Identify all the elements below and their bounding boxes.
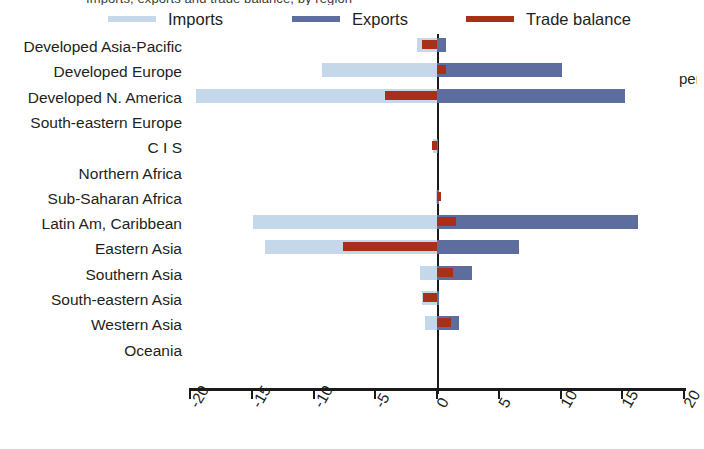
legend-item-exports: Exports: [292, 8, 408, 30]
chart-row: [190, 135, 684, 160]
chart-row: [190, 186, 684, 211]
legend-item-imports: Imports: [108, 8, 223, 30]
bar-trade-balance: [437, 192, 441, 201]
y-axis-category-labels: Developed Asia-PacificDeveloped EuropeDe…: [0, 34, 182, 388]
bar-imports: [322, 63, 437, 77]
y-axis-label: Eastern Asia: [0, 241, 182, 257]
y-axis-label: Latin Am, Caribbean: [0, 216, 182, 232]
bar-imports: [420, 266, 437, 280]
legend-swatch-exports: [292, 16, 340, 22]
y-axis-label: Developed Europe: [0, 64, 182, 80]
y-axis-label: Developed N. America: [0, 90, 182, 106]
legend-swatch-trade-balance: [466, 16, 514, 22]
bar-trade-balance: [432, 141, 437, 150]
y-axis-label: C I S: [0, 140, 182, 156]
x-axis-tick-label: -5: [371, 390, 393, 411]
bar-trade-balance: [437, 217, 456, 226]
legend-swatch-imports: [108, 16, 156, 22]
chart-row: [190, 338, 684, 363]
plot-area: [190, 34, 684, 388]
bar-exports: [437, 240, 519, 254]
chart-legend: Imports Exports Trade balance: [0, 8, 697, 30]
bar-imports: [425, 316, 437, 330]
bar-exports: [437, 215, 638, 229]
chart-row: [190, 59, 684, 84]
chart-row: [190, 262, 684, 287]
bar-trade-balance: [437, 268, 453, 277]
clipped-chart-title: Imports, exports and trade balance, by r…: [0, 0, 697, 5]
y-axis-label: South-eastern Europe: [0, 115, 182, 131]
bar-exports: [437, 139, 438, 153]
chart-row: [190, 211, 684, 236]
chart-row: [190, 287, 684, 312]
chart-row: [190, 85, 684, 110]
bar-exports: [437, 291, 439, 305]
bar-trade-balance: [437, 318, 451, 327]
y-axis-label: South-eastern Asia: [0, 292, 182, 308]
legend-label-trade-balance: Trade balance: [526, 11, 631, 28]
y-axis-label: Sub-Saharan Africa: [0, 191, 182, 207]
bar-imports: [253, 215, 437, 229]
y-axis-label: Developed Asia-Pacific: [0, 39, 182, 55]
chart-row: [190, 161, 684, 186]
bar-trade-balance: [343, 242, 437, 251]
bar-trade-balance: [437, 65, 446, 74]
bar-trade-balance: [385, 91, 437, 100]
legend-label-exports: Exports: [352, 11, 408, 28]
y-axis-label: Southern Asia: [0, 267, 182, 283]
bar-exports: [437, 38, 446, 52]
chart-row: [190, 110, 684, 135]
y-axis-label: Oceania: [0, 343, 182, 359]
x-axis-tick-label: 5: [495, 395, 515, 411]
y-axis-label: Western Asia: [0, 317, 182, 333]
legend-label-imports: Imports: [168, 11, 223, 28]
chart-row: [190, 34, 684, 59]
bar-exports: [437, 63, 562, 77]
chart-row: [190, 236, 684, 261]
legend-item-trade-balance: Trade balance: [466, 8, 631, 30]
clipped-side-text: per: [679, 70, 697, 90]
x-axis-tick-label: 0: [433, 395, 453, 411]
bar-trade-balance: [422, 40, 437, 49]
y-axis-label: Northern Africa: [0, 166, 182, 182]
bar-exports: [437, 89, 625, 103]
chart-row: [190, 312, 684, 337]
bar-trade-balance: [423, 293, 437, 302]
